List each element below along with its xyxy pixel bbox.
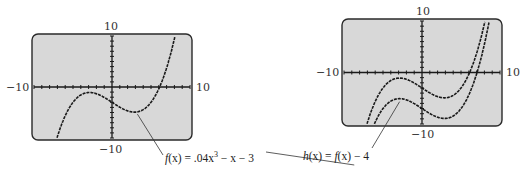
left-graph-ymax-label: 10 bbox=[104, 20, 118, 33]
right-graph-xmin-label: −10 bbox=[316, 66, 339, 79]
left-graph-xmin-label: −10 bbox=[6, 81, 29, 94]
right-graph-ymin-label: −10 bbox=[411, 128, 434, 141]
caption-h: h(x) = f(x) − 4 bbox=[303, 150, 369, 162]
right-graph-ymax-label: 10 bbox=[416, 5, 430, 18]
graphs-canvas bbox=[0, 0, 521, 176]
left-graph-ymin-label: −10 bbox=[99, 143, 122, 156]
caption-f: f(x) = .04x3 − x − 3 bbox=[165, 150, 254, 164]
left-graph-xmax-label: 10 bbox=[196, 81, 210, 94]
right-graph-xmax-label: 10 bbox=[506, 66, 520, 79]
